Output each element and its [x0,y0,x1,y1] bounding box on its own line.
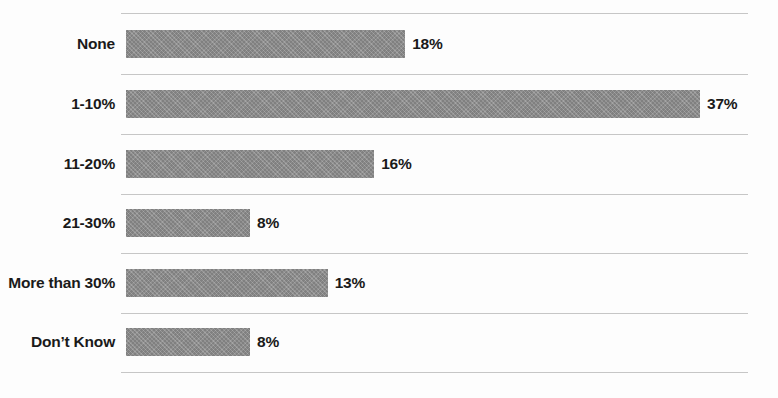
bar-group: 8% [126,328,279,356]
bar[interactable] [126,150,374,178]
bar[interactable] [126,90,700,118]
bar[interactable] [126,30,405,58]
bar-value-label: 16% [381,155,411,173]
category-label: 1-10% [71,95,115,113]
bar-value-label: 37% [707,95,737,113]
bar-group: 13% [126,269,365,297]
bar-row: 1-10% 37% [0,74,778,134]
category-label: None [77,35,115,53]
bar-row: None 18% [0,14,778,74]
bar[interactable] [126,328,250,356]
bar-value-label: 8% [257,333,279,351]
bar[interactable] [126,209,250,237]
bar-value-label: 13% [335,274,365,292]
category-label: More than 30% [8,274,115,292]
bar-value-label: 8% [257,214,279,232]
bar[interactable] [126,269,328,297]
horizontal-bar-chart: None 18% 1-10% 37% 11-20% 16% 21-30% 8% … [0,0,778,398]
category-label: 11-20% [64,155,115,173]
bar-value-label: 18% [412,35,442,53]
bar-group: 8% [126,209,279,237]
bar-row: Don’t Know 8% [0,312,778,372]
bar-group: 37% [126,90,737,118]
bar-group: 18% [126,30,443,58]
bar-row: 21-30% 8% [0,193,778,253]
gridline-bottom [121,372,748,373]
category-label: 21-30% [63,214,115,232]
category-label: Don’t Know [31,333,115,351]
bar-group: 16% [126,150,412,178]
bar-row: More than 30% 13% [0,253,778,313]
bar-row: 11-20% 16% [0,134,778,194]
